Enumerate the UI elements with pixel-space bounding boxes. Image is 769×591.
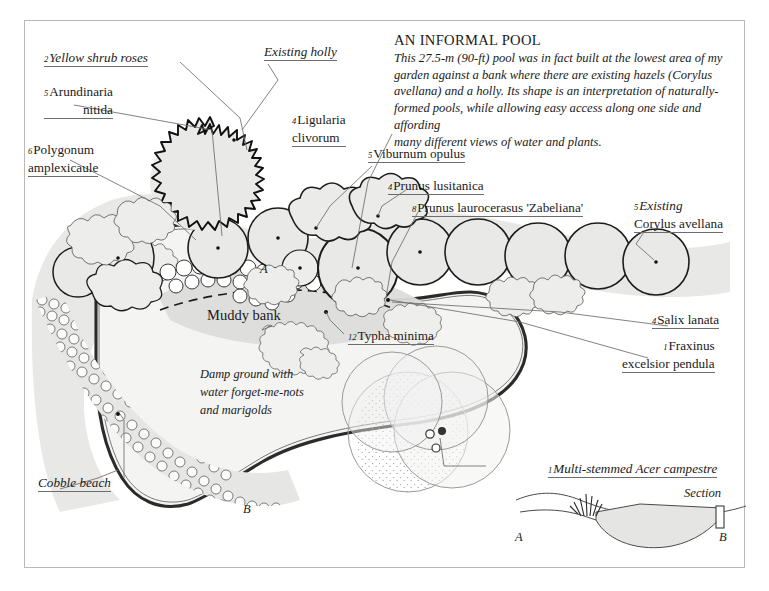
section-marker-a: A: [515, 530, 523, 545]
damp-ground-line-3: and marigolds: [200, 403, 272, 417]
name2-arundinaria-nitida: nitida: [83, 102, 113, 117]
name-fraxinus-excelsior-pendula: Fraxinus: [669, 338, 715, 353]
label-damp-ground: Damp ground with water forget-me-nots an…: [200, 366, 304, 420]
label-yellow-shrub-roses: 2Yellow shrub roses: [44, 48, 148, 67]
label-viburnum-opulus: 5Viburnum opulus: [368, 144, 465, 163]
section-marker-b: B: [719, 530, 727, 545]
page-title: AN INFORMAL POOL: [394, 32, 541, 49]
name-viburnum-opulus: Viburnum opulus: [373, 146, 465, 161]
label-polygonum-amplexicaule: 6Polygonum amplexicaule: [28, 140, 98, 177]
label-salix-lanata: 4Salix lanata: [652, 310, 719, 329]
name-typha-minima: Typha minima: [358, 328, 434, 343]
name-salix-lanata: Salix lanata: [657, 312, 719, 327]
description-line-2: garden against a bank where there are ex…: [394, 68, 712, 82]
name-prunus-lusitanica: Prunus lusitanica: [393, 178, 483, 193]
name-cobble-beach: Cobble beach: [38, 475, 111, 490]
label-typha-minima: 12Typha minima: [348, 326, 434, 345]
plan-marker-b: B: [243, 502, 251, 517]
name2-existing-corylus-avellana: Corylus avellana: [634, 216, 723, 231]
label-acer-campestre: 1Multi-stemmed Acer campestre: [548, 459, 717, 478]
name-existing-holly: Existing holly: [264, 44, 337, 59]
description-line-4: formed pools, while allowing easy access…: [394, 101, 701, 132]
description-paragraph: This 27.5-m (90-ft) pool was in fact bui…: [394, 50, 742, 150]
section-drawing: [516, 493, 746, 547]
label-fraxinus-excelsior-pendula: 1Fraxinus excelsior pendula: [622, 336, 715, 373]
label-cobble-beach: Cobble beach: [38, 473, 111, 492]
name2-polygonum-amplexicaule: amplexicaule: [28, 160, 98, 175]
name-ligularia-clivorum: Ligularia: [297, 112, 345, 127]
name2-ligularia-clivorum: clivorum: [292, 130, 340, 145]
section-caption: Section: [684, 486, 721, 501]
damp-ground-line-1: Damp ground with: [200, 367, 293, 381]
name-prunus-laurocerasus: Prunus laurocerasus 'Zabeliana': [417, 200, 583, 215]
name-arundinaria-nitida: Arundinaria: [49, 84, 113, 99]
name-yellow-shrub-roses: Yellow shrub roses: [49, 50, 148, 65]
description-line-1: This 27.5-m (90-ft) pool was in fact bui…: [394, 51, 722, 65]
name2-fraxinus-excelsior-pendula: excelsior pendula: [622, 356, 715, 371]
name-existing-corylus-avellana: Existing: [639, 198, 682, 213]
description-line-3: avellana) and a holly. Its shape is an i…: [394, 84, 719, 98]
garden-plan-page: AN INFORMAL POOL This 27.5-m (90-ft) poo…: [0, 0, 769, 591]
label-existing-holly: Existing holly: [264, 42, 337, 61]
label-prunus-laurocerasus: 8Prunus laurocerasus 'Zabeliana': [412, 198, 583, 217]
label-muddy-bank: Muddy bank: [207, 307, 281, 324]
label-prunus-lusitanica: 4Prunus lusitanica: [388, 176, 484, 195]
label-existing-corylus-avellana: 5Existing Corylus avellana: [634, 196, 723, 233]
label-ligularia-clivorum: 4Ligularia clivorum: [292, 110, 346, 147]
name-polygonum-amplexicaule: Polygonum: [33, 142, 94, 157]
name-acer-campestre: Multi-stemmed Acer campestre: [553, 461, 717, 476]
damp-ground-line-2: water forget-me-nots: [200, 385, 304, 399]
plan-marker-a: A: [260, 262, 268, 277]
qty-typha-minima: 12: [348, 332, 358, 342]
label-arundinaria-nitida: 5Arundinaria nitida: [44, 82, 113, 119]
